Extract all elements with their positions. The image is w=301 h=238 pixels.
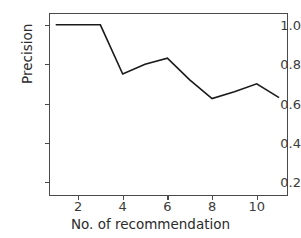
x-tick-label: 6 [163, 200, 171, 213]
x-tick-label: 8 [208, 200, 216, 213]
x-axis-ticks: 246810 [0, 0, 301, 238]
x-axis-label: No. of recommendation [0, 218, 301, 232]
x-tick-mark [123, 196, 124, 200]
x-tick-label: 10 [248, 200, 265, 213]
x-tick-label: 2 [74, 200, 82, 213]
x-tick-mark [167, 196, 168, 200]
x-tick-mark [212, 196, 213, 200]
x-tick-mark [257, 196, 258, 200]
y-axis-label: Precision [21, 0, 35, 134]
x-tick-label: 4 [119, 200, 127, 213]
precision-line-chart: 0.20.40.60.81.0 246810 No. of recommenda… [0, 0, 301, 238]
x-tick-mark [78, 196, 79, 200]
